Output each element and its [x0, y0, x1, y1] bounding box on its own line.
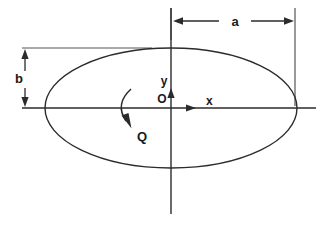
rotation-label: Q [137, 129, 147, 144]
ellipse-diagram-figure: a b x y O Q [0, 0, 332, 226]
y-axis-label: y [161, 74, 168, 88]
dimension-a-arrowhead-right-icon [284, 17, 294, 25]
dimension-a-label: a [231, 14, 239, 29]
dimension-b-group: b [15, 49, 29, 107]
x-axis-label: x [206, 94, 213, 108]
x-axis-arrowhead-icon [186, 104, 196, 111]
rotation-arrow-group: Q [121, 89, 147, 144]
dimension-b-arrowhead-bottom-icon [21, 97, 28, 107]
y-axis-arrowhead-icon [167, 88, 174, 98]
dimension-a-arrowhead-left-icon [173, 17, 183, 25]
dimension-b-label: b [15, 71, 23, 86]
dimension-a-group: a [173, 14, 294, 29]
diagram-canvas: a b x y O Q [0, 0, 332, 226]
origin-label: O [157, 92, 166, 106]
rotation-arrowhead-icon [122, 113, 132, 129]
dimension-b-arrowhead-top-icon [21, 49, 28, 59]
